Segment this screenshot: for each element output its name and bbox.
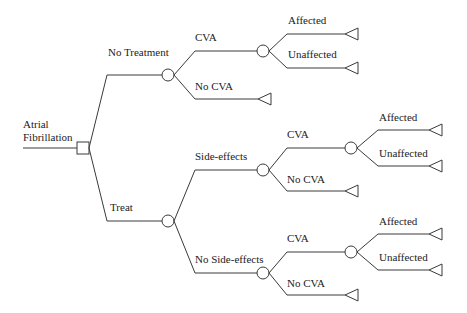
terminal-node-icon bbox=[429, 228, 442, 240]
label-nt-affected: Affected bbox=[288, 14, 326, 26]
terminal-node-icon bbox=[345, 62, 358, 74]
label-no-side-effects: No Side-effects bbox=[195, 253, 264, 265]
root-label-line2: Fibrillation bbox=[23, 131, 73, 143]
label-nt-cva: CVA bbox=[195, 31, 217, 43]
chance-node-side-effects bbox=[257, 164, 269, 176]
chance-node-no-treatment bbox=[162, 69, 174, 81]
edge-se-cva-affected bbox=[357, 130, 429, 148]
terminal-node-icon bbox=[345, 28, 358, 40]
label-se-affected: Affected bbox=[379, 111, 417, 123]
edge-no-treatment bbox=[89, 75, 162, 148]
label-nse-affected: Affected bbox=[379, 215, 417, 227]
chance-node-se-cva bbox=[345, 142, 357, 154]
terminal-node-icon bbox=[258, 93, 271, 105]
terminal-node-icon bbox=[345, 185, 358, 197]
root-label-line1: Atrial bbox=[23, 118, 49, 130]
edge-se-cva bbox=[269, 148, 345, 170]
chance-node-nt-cva bbox=[257, 45, 269, 57]
terminal-node-icon bbox=[429, 160, 442, 172]
terminal-node-icon bbox=[429, 264, 442, 276]
label-nse-no-cva: No CVA bbox=[287, 277, 325, 289]
label-nse-cva: CVA bbox=[287, 232, 309, 244]
edge-nt-cva bbox=[174, 51, 257, 75]
label-nse-unaffected: Unaffected bbox=[379, 251, 428, 263]
label-treat: Treat bbox=[110, 201, 133, 213]
label-se-cva: CVA bbox=[287, 128, 309, 140]
label-se-no-cva: No CVA bbox=[287, 173, 325, 185]
chance-node-nse-cva bbox=[345, 246, 357, 258]
label-side-effects: Side-effects bbox=[195, 150, 247, 162]
label-se-unaffected: Unaffected bbox=[379, 147, 428, 159]
edge-side-effects bbox=[174, 170, 257, 221]
edge-nse-cva bbox=[269, 252, 345, 273]
label-nt-unaffected: Unaffected bbox=[288, 48, 337, 60]
edge-no-side-effects bbox=[174, 221, 257, 273]
edge-nse-cva-affected bbox=[357, 234, 429, 252]
decision-node bbox=[77, 142, 89, 154]
terminal-node-icon bbox=[345, 289, 358, 301]
label-nt-no-cva: No CVA bbox=[195, 80, 233, 92]
label-no-treatment: No Treatment bbox=[108, 46, 169, 58]
chance-node-treat bbox=[162, 215, 174, 227]
chance-node-no-side-effects bbox=[257, 267, 269, 279]
terminal-node-icon bbox=[429, 124, 442, 136]
